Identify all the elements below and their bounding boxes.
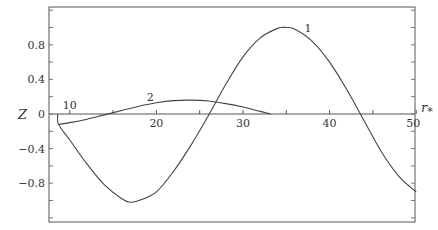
x-tick-label: 50 <box>406 117 420 130</box>
y-tick-label: −0.8 <box>18 177 45 190</box>
x-tick-label: 20 <box>149 117 163 130</box>
x-axis-label: r* <box>421 100 433 118</box>
chart: 0.80.40−0.4−0.8 20304050 1210 Z r* <box>0 0 438 230</box>
y-tick-label: 0.4 <box>28 73 46 86</box>
curve-label: 1 <box>304 22 311 35</box>
x-tick-label: 30 <box>236 117 250 130</box>
curve-1 <box>57 27 416 202</box>
curve-label: 2 <box>147 91 154 104</box>
annotations: 1210 <box>63 22 312 113</box>
y-axis-label: Z <box>17 107 28 122</box>
y-tick-label: −0.4 <box>18 143 45 156</box>
y-tick-label: 0.8 <box>28 39 46 52</box>
curve-label: 10 <box>63 99 77 112</box>
y-tick-label: 0 <box>38 108 45 121</box>
series <box>57 27 416 202</box>
x-tick-label: 40 <box>323 117 337 130</box>
x-tick-labels: 20304050 <box>149 117 420 130</box>
